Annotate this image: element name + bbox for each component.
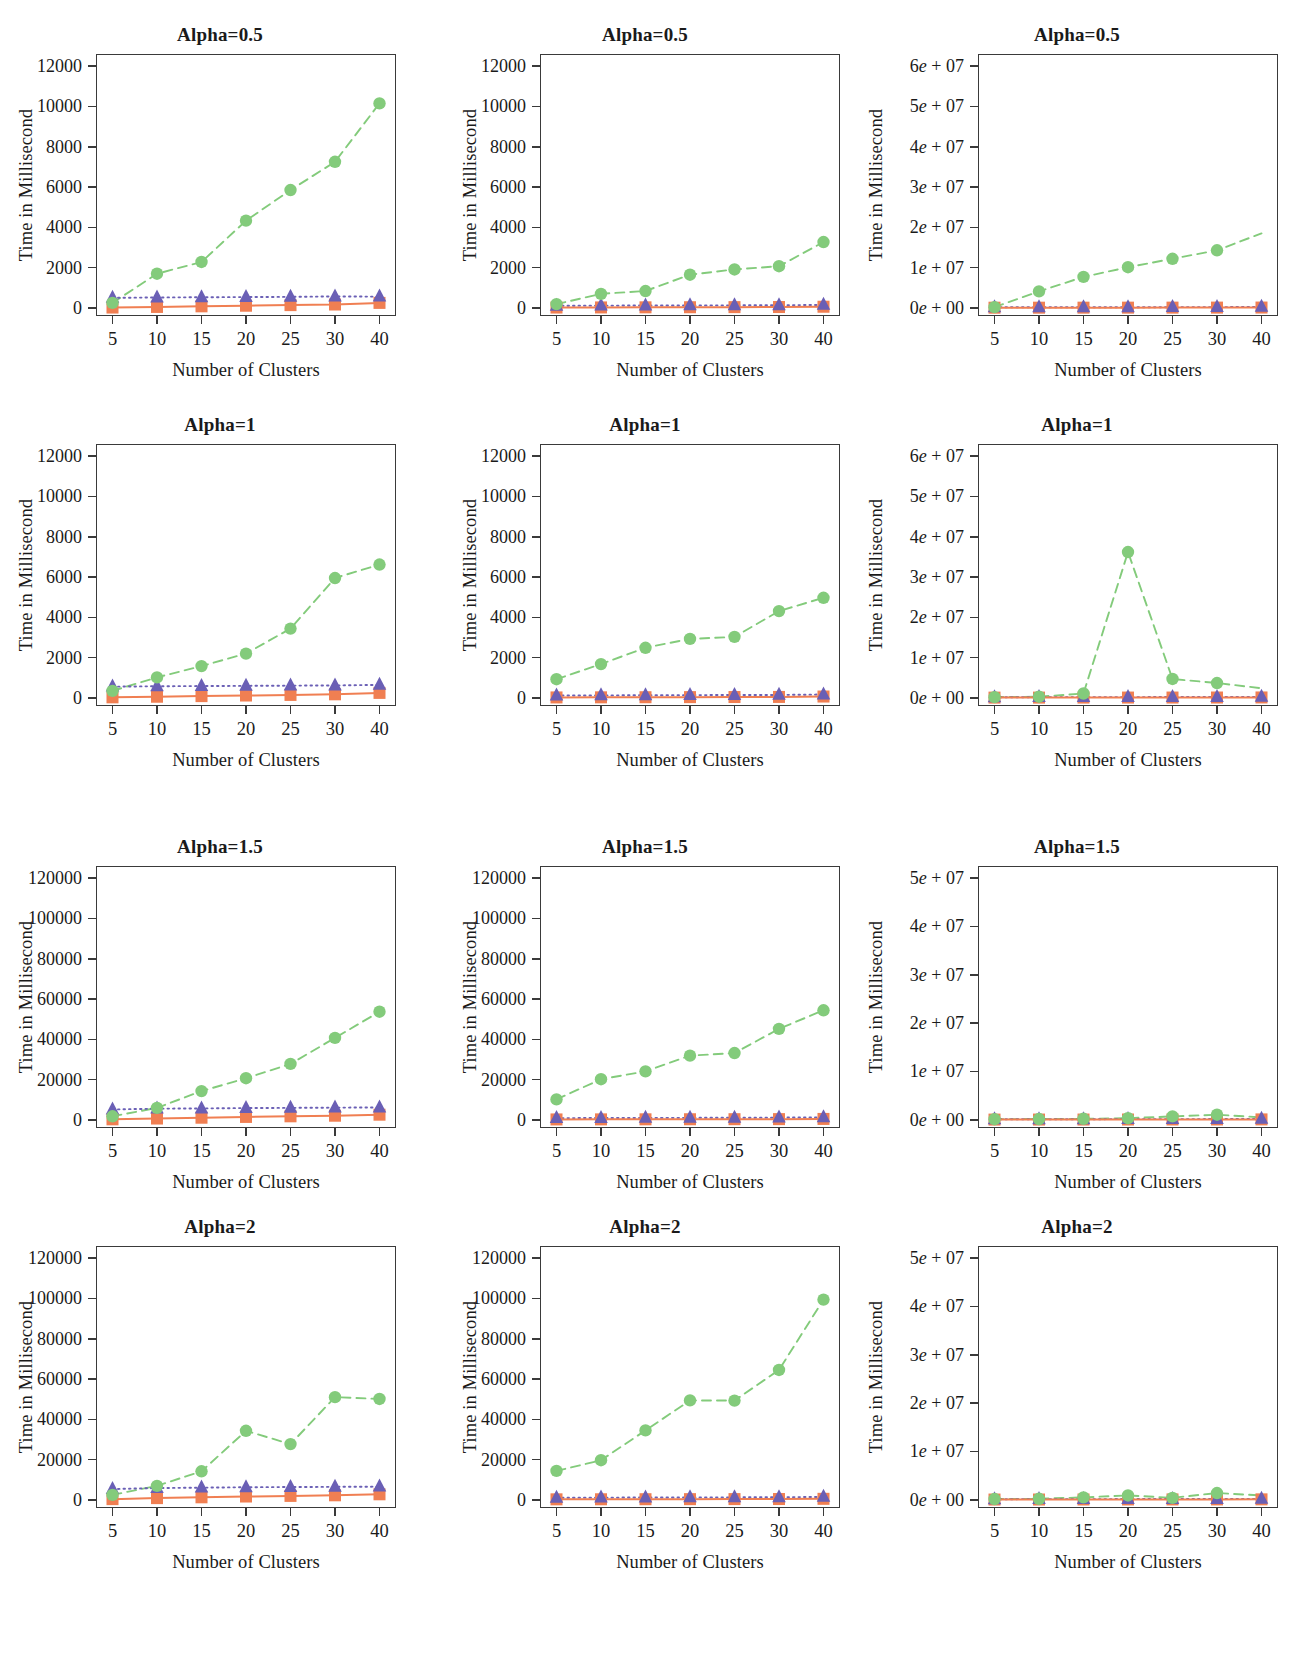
x-axis-tick-mark [112, 706, 114, 714]
marker-green-circle-series [284, 1438, 296, 1450]
marker-green-circle-series [550, 1093, 562, 1105]
plot-area [540, 1246, 840, 1508]
chart-panel-r2c3: Alpha=10e + 001e + 072e + 073e + 074e + … [850, 390, 1304, 800]
marker-green-circle-series [817, 1293, 829, 1305]
y-axis-tick-mark [532, 1459, 540, 1461]
y-axis-label: Time in Millisecond [460, 54, 481, 316]
x-axis-tick-label: 20 [681, 1521, 700, 1542]
marker-orange-square-series [151, 1492, 163, 1504]
y-axis-tick-mark [88, 455, 96, 457]
x-axis-tick-mark [994, 706, 996, 714]
y-axis-tick-label: 40000 [440, 1409, 526, 1430]
marker-green-circle-series [550, 673, 562, 685]
panel-title: Alpha=1.5 [440, 836, 850, 858]
y-axis-tick-mark [88, 106, 96, 108]
x-axis-label: Number of Clusters [540, 360, 840, 381]
marker-green-circle-series [1077, 1113, 1089, 1125]
x-axis-tick-label: 40 [1252, 1521, 1271, 1542]
x-axis-tick-label: 15 [1074, 329, 1093, 350]
marker-purple-triangle-series [195, 1100, 209, 1113]
y-axis-tick-label: 40000 [440, 1029, 526, 1050]
chart-grid: Alpha=0.50200040006000800010000120005101… [0, 0, 1304, 1668]
marker-green-circle-series [595, 1454, 607, 1466]
x-axis-tick-mark [334, 1128, 336, 1136]
x-axis-tick-label: 40 [814, 329, 833, 350]
x-axis-tick-mark [734, 316, 736, 324]
x-axis-tick-label: 10 [148, 1521, 167, 1542]
marker-green-circle-series [639, 1424, 651, 1436]
marker-orange-square-series [240, 690, 252, 702]
y-axis-tick-mark [532, 1257, 540, 1259]
y-axis-tick-mark [970, 1402, 978, 1404]
x-axis-tick-mark [379, 706, 381, 714]
y-axis-tick-mark [970, 1354, 978, 1356]
marker-purple-triangle-series [373, 677, 387, 690]
marker-green-circle-series [817, 236, 829, 248]
marker-green-circle-series [151, 671, 163, 683]
y-axis-tick-label: 60000 [440, 989, 526, 1010]
x-axis-tick-mark [556, 706, 558, 714]
y-axis-tick-mark [970, 455, 978, 457]
marker-orange-square-series [151, 301, 163, 313]
y-axis-tick-mark [970, 1499, 978, 1501]
marker-green-circle-series [639, 285, 651, 297]
x-axis-tick-label: 10 [592, 329, 611, 350]
marker-purple-triangle-series [284, 678, 298, 691]
x-axis-tick-mark [600, 1508, 602, 1516]
marker-green-circle-series [195, 256, 207, 268]
x-axis-tick-label: 30 [770, 719, 789, 740]
y-axis-tick-mark [532, 267, 540, 269]
marker-green-circle-series [1122, 546, 1134, 558]
y-axis-tick-mark [532, 918, 540, 920]
x-axis-tick-label: 25 [281, 1521, 300, 1542]
x-axis-label: Number of Clusters [96, 750, 396, 771]
y-axis-tick-label: 2000 [440, 647, 526, 668]
x-axis-tick-mark [334, 706, 336, 714]
y-axis-tick-mark [532, 186, 540, 188]
panel-title: Alpha=1.5 [850, 836, 1304, 858]
y-axis-tick-mark [88, 576, 96, 578]
y-axis-label: Time in Millisecond [460, 866, 481, 1128]
x-axis-tick-label: 40 [814, 719, 833, 740]
x-axis-tick-label: 10 [592, 1521, 611, 1542]
x-axis-tick-mark [1038, 1508, 1040, 1516]
x-axis-tick-mark [112, 1508, 114, 1516]
x-axis-tick-mark [334, 1508, 336, 1516]
x-axis-tick-label: 40 [1252, 719, 1271, 740]
x-axis-tick-mark [156, 706, 158, 714]
marker-green-circle-series [728, 1394, 740, 1406]
y-axis-label: Time in Millisecond [460, 444, 481, 706]
x-axis-tick-label: 15 [636, 1521, 655, 1542]
x-axis-tick-mark [290, 706, 292, 714]
y-axis-tick-mark [532, 1298, 540, 1300]
x-axis-tick-mark [734, 706, 736, 714]
marker-orange-square-series [151, 1113, 163, 1125]
panel-title: Alpha=1 [440, 414, 850, 436]
marker-green-circle-series [595, 288, 607, 300]
y-axis-tick-label: 12000 [0, 56, 82, 77]
marker-green-circle-series [773, 1364, 785, 1376]
y-axis-tick-mark [970, 877, 978, 879]
x-axis-tick-mark [1038, 1128, 1040, 1136]
x-axis-tick-mark [778, 1508, 780, 1516]
x-axis-tick-mark [994, 1128, 996, 1136]
x-axis-tick-mark [1261, 706, 1263, 714]
y-axis-tick-mark [88, 536, 96, 538]
y-axis-tick-label: 0 [0, 1109, 82, 1130]
x-axis-tick-label: 20 [237, 1521, 256, 1542]
marker-orange-square-series [285, 689, 297, 701]
x-axis-tick-mark [994, 1508, 996, 1516]
y-axis-tick-mark [88, 877, 96, 879]
x-axis-tick-label: 15 [1074, 719, 1093, 740]
y-axis-tick-mark [88, 267, 96, 269]
x-axis-tick-label: 10 [592, 719, 611, 740]
x-axis-tick-label: 20 [237, 1141, 256, 1162]
x-axis-tick-mark [556, 1128, 558, 1136]
x-axis-tick-mark [1127, 1508, 1129, 1516]
x-axis-tick-mark [245, 706, 247, 714]
y-axis-tick-mark [88, 998, 96, 1000]
y-axis-tick-mark [88, 1338, 96, 1340]
y-axis-tick-mark [970, 1257, 978, 1259]
x-axis-tick-label: 10 [592, 1141, 611, 1162]
y-axis-tick-label: 60000 [0, 989, 82, 1010]
